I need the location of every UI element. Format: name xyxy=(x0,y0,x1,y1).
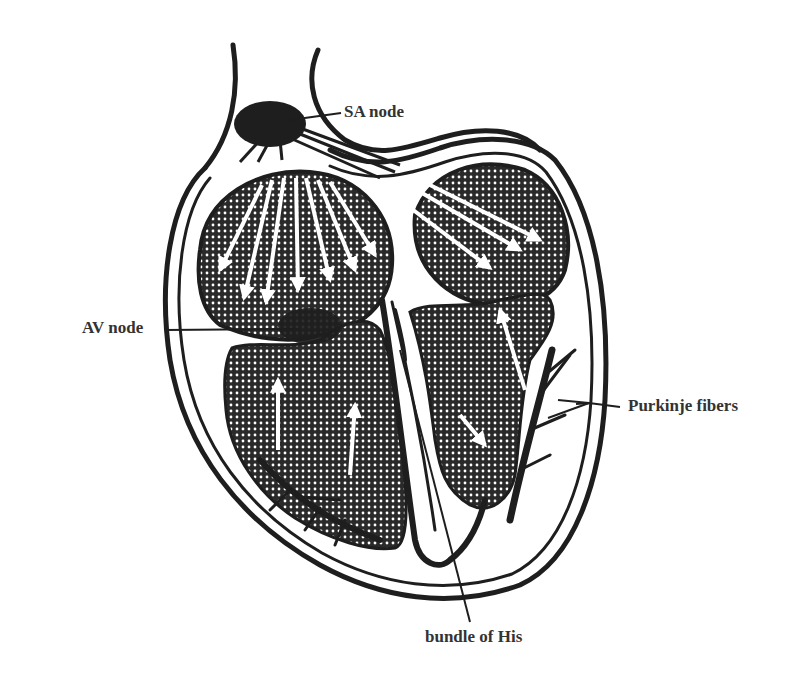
label-sa-node: SA node xyxy=(344,102,404,122)
purkinje-leader xyxy=(548,400,620,418)
heart-conduction-diagram xyxy=(0,0,808,684)
label-bundle-of-his: bundle of His xyxy=(425,627,522,647)
label-av-node: AV node xyxy=(82,318,143,338)
av-node-leader xyxy=(165,329,300,330)
sa-node xyxy=(234,101,306,147)
av-node xyxy=(278,308,342,344)
label-purkinje-fibers: Purkinje fibers xyxy=(628,396,738,416)
